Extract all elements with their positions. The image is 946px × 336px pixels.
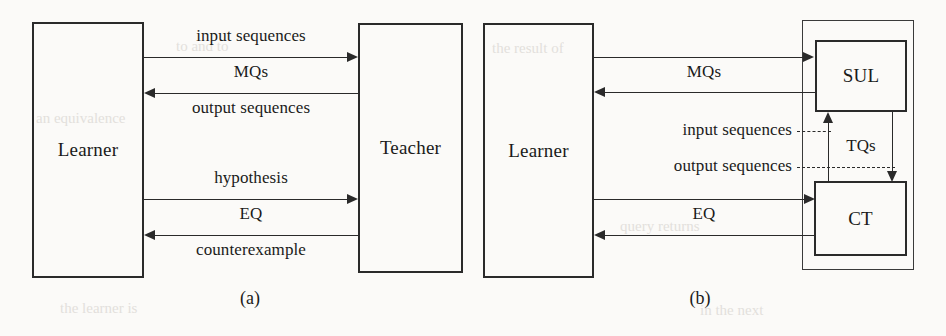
- panel-b-label-tqs: TQs: [832, 136, 890, 156]
- panel-a-label-output-sequences: output sequences: [144, 98, 358, 118]
- panel-a-arrowhead-1: [347, 52, 358, 62]
- panel-a-label-hypothesis: hypothesis: [144, 168, 358, 188]
- panel-b-label-mqs: MQs: [594, 62, 814, 82]
- panel-a-arrowhead-2: [144, 88, 155, 98]
- panel-b-arrow-line-4: [605, 235, 815, 236]
- panel-b-ct-box: CT: [814, 181, 907, 256]
- panel-b-label-input-sequences: input sequences: [600, 120, 792, 140]
- panel-b-learner-box: Learner: [483, 23, 594, 278]
- panel-b-learner-label: Learner: [508, 140, 568, 162]
- panel-a-arrowhead-3: [347, 194, 358, 204]
- panel-a-label-counterexample: counterexample: [144, 240, 358, 260]
- panel-b-tqs-down-arrowhead: [887, 171, 897, 182]
- panel-b-ct-label: CT: [848, 208, 873, 230]
- panel-a-arrow-line-2: [155, 93, 358, 94]
- panel-b-sul-box: SUL: [815, 40, 907, 112]
- panel-b-arrowhead-3: [804, 194, 815, 204]
- panel-b-tqs-up-line: [828, 122, 829, 182]
- panel-a-arrowhead-4: [144, 230, 155, 240]
- panel-b-arrow-line-3: [594, 199, 806, 200]
- panel-a-arrow-line-1: [144, 57, 348, 58]
- panel-b-tqs-down-line: [892, 112, 893, 172]
- panel-a-caption: (a): [200, 288, 300, 309]
- panel-a-teacher-label: Teacher: [380, 137, 441, 159]
- panel-a-learner-label: Learner: [58, 139, 118, 161]
- panel-b-sul-label: SUL: [843, 65, 880, 87]
- panel-b-label-output-sequences: output sequences: [600, 156, 792, 176]
- panel-b-arrowhead-4: [594, 230, 605, 240]
- panel-b-arrowhead-1: [803, 52, 814, 62]
- panel-a-label-mqs: MQs: [144, 62, 358, 82]
- bleed-through-text: the learner is: [60, 300, 137, 317]
- panel-a-arrow-line-3: [144, 199, 348, 200]
- panel-a-teacher-box: Teacher: [358, 23, 463, 273]
- panel-b-dashed-line-input: [797, 131, 831, 132]
- panel-a-arrow-line-4: [155, 235, 358, 236]
- panel-b-caption: (b): [650, 288, 750, 309]
- figure-container: to and to the result of an equivalence q…: [0, 0, 946, 336]
- panel-a-label-input-sequences: input sequences: [144, 26, 358, 46]
- panel-b-tqs-up-arrowhead: [823, 112, 833, 123]
- panel-a-label-eq: EQ: [144, 204, 358, 224]
- panel-b-dashed-line-output: [797, 167, 895, 168]
- panel-b-arrow-line-1: [594, 57, 804, 58]
- panel-b-label-eq: EQ: [594, 204, 814, 224]
- panel-a-learner-box: Learner: [32, 22, 144, 278]
- panel-b-arrowhead-2: [594, 87, 605, 97]
- panel-b-arrow-line-2: [605, 92, 815, 93]
